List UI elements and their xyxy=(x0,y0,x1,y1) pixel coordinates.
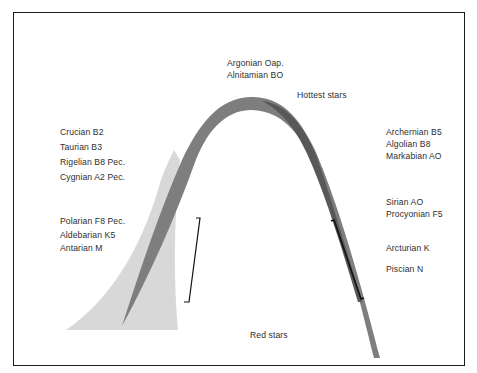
label-group-left-upper: Crucian B2 Taurian B3 Rigelian B8 Pec. C… xyxy=(60,125,125,185)
label-cygnian: Cygnian A2 Pec. xyxy=(60,170,125,185)
label-procyonian: Procyonian F5 xyxy=(386,208,443,220)
label-markabian: Markabian AO xyxy=(386,150,442,162)
stellar-arch-diagram xyxy=(0,0,477,373)
dark-arch-strip xyxy=(262,101,362,302)
label-arcturian: Arcturian K xyxy=(386,242,430,254)
label-aldebarian: Aldebarian K5 xyxy=(60,229,125,243)
label-red-stars: Red stars xyxy=(250,329,288,341)
label-polarian: Polarian F8 Pec. xyxy=(60,215,125,229)
label-group-top: Argonian Oap. Alnitamian BO xyxy=(227,57,284,81)
label-taurian: Taurian B3 xyxy=(60,140,125,155)
label-group-left-lower: Polarian F8 Pec. Aldebarian K5 Antarian … xyxy=(60,215,125,256)
left-bracket xyxy=(184,218,200,302)
label-archernian: Archernian B5 xyxy=(386,126,442,138)
label-group-right-upper: Archernian B5 Algolian B8 Markabian AO xyxy=(386,126,442,162)
label-rigelian: Rigelian B8 Pec. xyxy=(60,155,125,170)
label-group-right-middle: Sirian AO Procyonian F5 xyxy=(386,196,443,220)
label-algolian: Algolian B8 xyxy=(386,138,442,150)
label-hottest-stars: Hottest stars xyxy=(297,89,347,101)
label-piscian: Piscian N xyxy=(386,263,423,275)
label-alnitamian: Alnitamian BO xyxy=(227,69,284,81)
label-argonian: Argonian Oap. xyxy=(227,57,284,69)
label-sirian: Sirian AO xyxy=(386,196,443,208)
label-crucian: Crucian B2 xyxy=(60,125,125,140)
label-antarian: Antarian M xyxy=(60,242,125,256)
